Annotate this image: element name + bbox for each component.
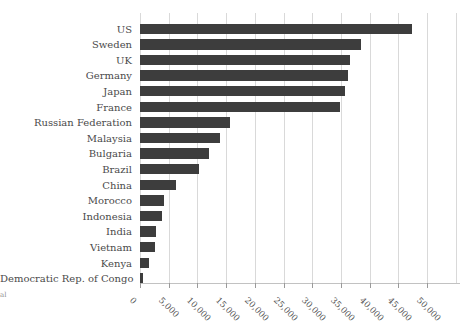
- x-axis-line: [140, 283, 460, 284]
- x-tick-label: 5,000: [157, 295, 181, 319]
- bar: [140, 133, 220, 144]
- gridline: [255, 13, 256, 283]
- gridline: [370, 13, 371, 283]
- gridline: [341, 13, 342, 283]
- category-label: Malaysia: [0, 133, 132, 144]
- x-tick-label: 35,000: [329, 295, 357, 323]
- x-tick: [427, 283, 428, 288]
- category-label: Democratic Rep. of Congo: [0, 273, 132, 284]
- category-label: Germany: [0, 70, 132, 81]
- category-label: Morocco: [0, 195, 132, 206]
- bar: [140, 86, 345, 97]
- gridline: [226, 13, 227, 283]
- category-label: India: [0, 226, 132, 237]
- x-tick-label: 30,000: [300, 295, 328, 323]
- x-tick: [370, 283, 371, 288]
- bar: [140, 211, 162, 222]
- x-tick: [398, 283, 399, 288]
- bar: [140, 102, 340, 113]
- x-tick: [169, 283, 170, 288]
- category-label: China: [0, 180, 132, 191]
- gridline: [398, 13, 399, 283]
- x-tick-label: 0: [128, 295, 139, 306]
- x-tick-label: 15,000: [214, 295, 242, 323]
- bar: [140, 148, 209, 159]
- bar: [140, 39, 361, 50]
- x-tick-label: 20,000: [243, 295, 271, 323]
- category-label: Vietnam: [0, 242, 132, 253]
- gridline: [284, 13, 285, 283]
- cut-off-text-fragment: al: [0, 291, 6, 299]
- x-tick-label: 40,000: [358, 295, 386, 323]
- x-tick: [140, 283, 141, 288]
- gridline: [427, 13, 428, 283]
- bar: [140, 164, 199, 175]
- x-tick-label: 10,000: [185, 295, 213, 323]
- category-label: Indonesia: [0, 211, 132, 222]
- category-label: France: [0, 102, 132, 113]
- gridline: [312, 13, 313, 283]
- bar: [140, 117, 230, 128]
- bar: [140, 258, 149, 269]
- x-tick: [341, 283, 342, 288]
- bar: [140, 195, 164, 206]
- x-tick: [312, 283, 313, 288]
- category-label: UK: [0, 55, 132, 66]
- category-label: Bulgaria: [0, 148, 132, 159]
- category-label: Japan: [0, 86, 132, 97]
- bar: [140, 24, 412, 35]
- bar-chart: al USSwedenUKGermanyJapanFranceRussian F…: [0, 0, 465, 332]
- category-label: Sweden: [0, 39, 132, 50]
- category-label: Russian Federation: [0, 117, 132, 128]
- x-tick: [255, 283, 256, 288]
- x-tick: [226, 283, 227, 288]
- bar: [140, 242, 155, 253]
- category-label: Brazil: [0, 164, 132, 175]
- category-label: Kenya: [0, 258, 132, 269]
- bar: [140, 55, 350, 66]
- category-label: US: [0, 24, 132, 35]
- bar: [140, 70, 348, 81]
- x-tick: [284, 283, 285, 288]
- x-tick: [197, 283, 198, 288]
- gridline: [456, 13, 457, 283]
- plot-area: [140, 13, 460, 283]
- x-tick-label: 50,000: [415, 295, 443, 323]
- x-tick-label: 25,000: [271, 295, 299, 323]
- bar: [140, 180, 176, 191]
- bar: [140, 226, 156, 237]
- x-tick-label: 45,000: [386, 295, 414, 323]
